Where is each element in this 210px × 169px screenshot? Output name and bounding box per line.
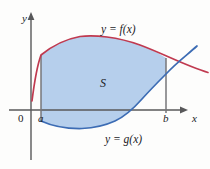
x-axis-arrowhead	[180, 107, 188, 114]
y-axis-label: y	[22, 13, 27, 24]
origin-label: 0	[18, 113, 24, 124]
left-bound-label-a: a	[38, 113, 44, 124]
curve-label-f: y = f(x)	[101, 24, 136, 36]
right-bound-label-b: b	[163, 113, 169, 124]
x-axis-label: x	[192, 113, 197, 124]
y-axis-arrowhead	[28, 12, 35, 20]
curve-label-g: y = g(x)	[105, 134, 142, 146]
area-between-curves-figure: y x 0 a b y = f(x) y = g(x) S	[0, 0, 210, 169]
region-label-S: S	[100, 77, 106, 89]
